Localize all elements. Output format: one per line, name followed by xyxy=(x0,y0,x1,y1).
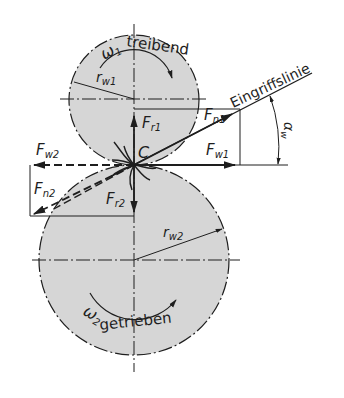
fn2-label: Fn2 xyxy=(34,180,55,199)
angle-label: αw xyxy=(279,122,297,139)
gear-force-diagram: ω1 treibend rw1 ω2 getrieben rw2 C Eingr… xyxy=(0,0,344,398)
fw1-label: Fw1 xyxy=(206,141,229,160)
gear-2-driven xyxy=(32,165,240,372)
line-of-action-label: Eingriffslinie xyxy=(228,60,313,111)
fw2-label: Fw2 xyxy=(36,141,59,160)
angle-arc xyxy=(270,96,279,164)
pitch-point-label: C xyxy=(138,143,150,162)
